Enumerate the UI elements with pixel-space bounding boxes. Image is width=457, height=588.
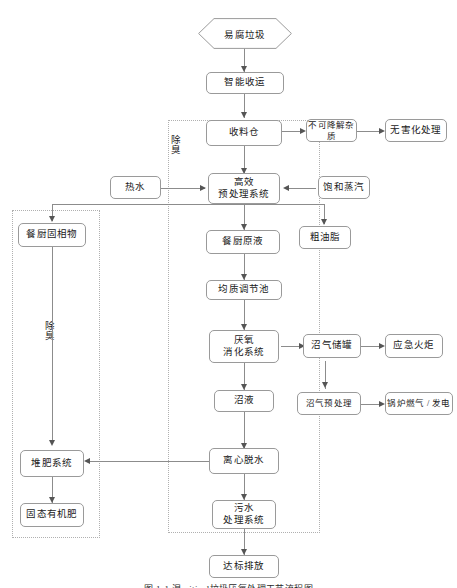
node-biogas-tank[interactable]: 沼气储罐 [303,334,361,358]
arrowhead-composting-right [84,458,90,464]
node-input-waste-label: 易腐垃圾 [224,27,265,41]
edge-solids-to-composting [52,247,53,443]
deodorize-label-main: 除臭 [170,136,181,156]
node-crude-grease[interactable]: 粗油脂 [299,226,351,249]
node-pretreatment-system[interactable]: 高效 预处理系统 [208,173,280,204]
node-hot-water[interactable]: 热水 [110,176,161,199]
arrowhead-pretreatment-right [283,185,289,191]
node-harmless-treatment[interactable]: 无害化处理 [385,119,447,142]
deodorize-label-left: 除臭 [44,322,55,342]
flowchart-canvas: 除臭 除臭 [0,0,457,588]
node-kitchen-raw-liquid[interactable]: 餐厨原液 [206,230,280,254]
deodorization-zone-left [12,210,100,538]
arrowhead-bin [241,112,247,118]
edge-centrifuge-to-composting [88,461,214,462]
node-input-waste: 易腐垃圾 [198,18,292,49]
node-emergency-flare[interactable]: 应急火炬 [385,334,443,358]
node-kitchen-solids[interactable]: 餐厨固相物 [18,223,86,247]
edge-pretreatment-to-solids-h [52,204,244,205]
node-homogenization-tank[interactable]: 均质调节池 [206,280,282,300]
node-non-degradable[interactable]: 不可降解杂质 [306,119,357,142]
figure-caption: 图 1-1 湿critical垃圾厌氧处理工艺流程图 [0,582,457,588]
arrowhead-pretreatment-left [200,185,206,191]
node-composting-system[interactable]: 堆肥系统 [20,450,84,477]
node-biogas-slurry[interactable]: 沼液 [214,390,274,412]
arrowhead-biogas-pretreatment [322,382,328,388]
edge-pretreatment-to-grease-h [244,204,324,205]
edge-hotwater-to-pretreatment [161,188,205,189]
arrowhead-composting-top [49,440,55,446]
edge-steam-to-pretreatment [288,188,316,189]
node-centrifugal-dewater[interactable]: 离心脱水 [209,448,279,474]
node-saturated-steam[interactable]: 饱和蒸汽 [318,176,370,199]
node-solid-organic-fertilizer[interactable]: 固态有机肥 [20,503,84,527]
node-anaerobic-digestion[interactable]: 厌氧 消化系统 [209,330,279,363]
node-compliant-discharge[interactable]: 达标排放 [209,555,279,578]
arrowhead-kitchen-solids [49,216,55,222]
node-receiving-bin[interactable]: 收料仓 [206,120,282,146]
arrowhead-grease [321,219,327,225]
node-boiler-gas-power[interactable]: 锅炉燃气 / 发电 [385,392,453,415]
node-smart-collection[interactable]: 智能收运 [206,72,284,94]
node-biogas-pretreatment[interactable]: 沼气预处理 [297,392,361,415]
node-wastewater-system[interactable]: 污水 处理系统 [212,500,276,529]
